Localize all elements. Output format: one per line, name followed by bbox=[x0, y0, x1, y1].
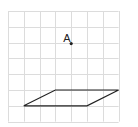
grid-diagram: A bbox=[0, 0, 138, 127]
point-a-label: A bbox=[63, 32, 71, 44]
